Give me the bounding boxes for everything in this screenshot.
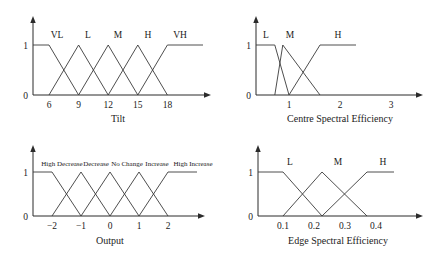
output-axis-title: Output: [96, 235, 124, 246]
ese-y-arrow-icon: [255, 145, 260, 152]
tilt-tick-2: 12: [103, 100, 113, 110]
ese-tick-1: 0.2: [308, 221, 320, 231]
ese-mf-l: [258, 172, 322, 216]
tilt-set-label-vl: VL: [51, 30, 64, 40]
cse-axis-title: Centre Spectral Efficiency: [287, 113, 393, 124]
ese-ylabel-zero: 0: [248, 212, 253, 222]
output-mf-increase: [110, 172, 168, 216]
cse-set-label-h: H: [335, 30, 342, 40]
tilt-panel: 1 0 6 9 12 15 18 VL L M H VH Tilt: [0, 0, 218, 127]
output-set-label-decrease: Decrease: [83, 160, 109, 168]
ese-axis-title: Edge Spectral Efficiency: [288, 235, 388, 246]
ese-tick-2: 0.3: [339, 221, 351, 231]
cse-tick-1: 2: [338, 100, 343, 110]
tilt-set-label-vh: VH: [173, 30, 187, 40]
tilt-tick-3: 15: [133, 100, 143, 110]
output-tick-2: 0: [108, 221, 113, 231]
ese-tick-3: 0.4: [370, 221, 382, 231]
cse-tick-2: 3: [389, 100, 394, 110]
cse-tick-0: 1: [287, 100, 292, 110]
ese-set-label-m: M: [334, 157, 343, 167]
ese-mf-m: [283, 172, 367, 216]
tilt-set-label-l: L: [85, 30, 91, 40]
output-x-arrow-icon: [198, 213, 205, 218]
output-mf-high-increase: [139, 172, 197, 216]
cse-set-label-m: M: [286, 30, 295, 40]
tilt-plot: 1 0 6 9 12 15 18 VL L M H VH Tilt: [0, 0, 218, 127]
tilt-tick-4: 18: [163, 100, 173, 110]
cse-mf-l: [256, 45, 289, 95]
output-plot: 1 0 −2 −1 0 1 2 High Decrease Decrease N…: [0, 127, 218, 254]
tilt-tick-1: 9: [76, 100, 81, 110]
output-ylabel-zero: 0: [23, 212, 28, 222]
output-set-label-no-change: No Change: [111, 160, 143, 168]
output-ylabel-one: 1: [23, 168, 28, 178]
output-mf-decrease: [52, 172, 110, 216]
edge-spectral-efficiency-panel: 1 0 0.1 0.2 0.3 0.4 L M H Edge Spectral …: [218, 127, 435, 254]
tilt-mf-vl: [33, 45, 79, 95]
output-tick-0: −2: [47, 221, 57, 231]
output-panel: 1 0 −2 −1 0 1 2 High Decrease Decrease N…: [0, 127, 218, 254]
tilt-tick-0: 6: [47, 100, 52, 110]
ese-x-arrow-icon: [416, 213, 423, 218]
cse-x-arrow-icon: [416, 92, 423, 97]
centre-spectral-efficiency-panel: 1 0 1 2 3 L M H Centre Spectral Efficien…: [218, 0, 435, 127]
output-set-label-high-decrease: High Decrease: [41, 160, 82, 168]
output-y-arrow-icon: [30, 145, 35, 152]
tilt-set-label-h: H: [145, 30, 152, 40]
ese-ylabel-one: 1: [248, 168, 253, 178]
output-mf-high-decrease: [33, 172, 81, 216]
centre-spectral-efficiency-plot: 1 0 1 2 3 L M H Centre Spectral Efficien…: [218, 0, 435, 127]
output-set-label-increase: Increase: [145, 160, 168, 168]
output-tick-1: −1: [76, 221, 86, 231]
cse-y-arrow-icon: [253, 16, 258, 23]
tilt-ylabel-one: 1: [23, 41, 28, 51]
tilt-set-label-m: M: [114, 30, 123, 40]
tilt-y-arrow-icon: [30, 16, 35, 23]
tilt-axis-title: Tilt: [111, 113, 125, 124]
tilt-mf-vh: [138, 45, 203, 95]
tilt-ylabel-zero: 0: [23, 91, 28, 101]
cse-ylabel-zero: 0: [246, 91, 251, 101]
fuzzy-membership-figure: 1 0 6 9 12 15 18 VL L M H VH Tilt: [0, 0, 435, 254]
ese-set-label-h: H: [380, 157, 387, 167]
cse-ylabel-one: 1: [246, 41, 251, 51]
tilt-mf-h: [108, 45, 167, 95]
ese-set-label-l: L: [287, 157, 293, 167]
tilt-x-arrow-icon: [204, 92, 211, 97]
cse-mf-h: [289, 45, 356, 95]
tilt-mf-m: [79, 45, 138, 95]
cse-set-label-l: L: [263, 30, 269, 40]
ese-tick-0: 0.1: [277, 221, 289, 231]
ese-mf-h: [322, 172, 394, 216]
output-tick-4: 2: [166, 221, 171, 231]
tilt-mf-l: [49, 45, 108, 95]
output-mf-no-change: [81, 172, 139, 216]
output-tick-3: 1: [137, 221, 142, 231]
edge-spectral-efficiency-plot: 1 0 0.1 0.2 0.3 0.4 L M H Edge Spectral …: [218, 127, 435, 254]
output-set-label-high-increase: High Increase: [173, 160, 212, 168]
